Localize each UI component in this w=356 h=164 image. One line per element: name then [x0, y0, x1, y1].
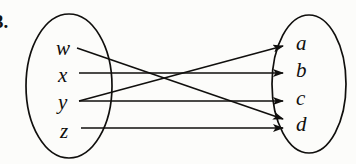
codomain-ellipse — [272, 15, 346, 153]
domain-element-x: x — [58, 65, 67, 86]
domain-element-w: w — [56, 38, 70, 59]
mapping-diagram-canvas — [0, 0, 356, 164]
codomain-element-a: a — [296, 33, 307, 54]
codomain-element-d: d — [296, 114, 307, 135]
domain-element-z: z — [60, 121, 68, 142]
codomain-element-c: c — [296, 88, 305, 109]
mapping-diagram-figure: 3. w x y z a b c d — [0, 0, 356, 164]
edge-w-to-d — [77, 48, 283, 119]
codomain-element-b: b — [296, 60, 307, 81]
domain-element-y: y — [58, 92, 67, 113]
